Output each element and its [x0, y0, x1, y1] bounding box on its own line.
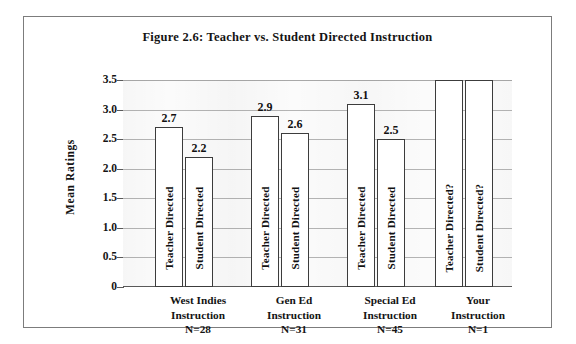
y-axis-title-text: Mean Ratings	[64, 139, 76, 215]
y-axis-tick-label: 0	[84, 281, 117, 293]
bar-inner-label: Student Directed?	[473, 184, 485, 272]
category-line: Instruction	[418, 308, 538, 323]
bar-inner-label: Student Directed	[385, 187, 397, 270]
y-axis-tick-mark	[117, 110, 123, 111]
bar-value-label: 2.7	[162, 111, 177, 126]
plot-area: Teacher Directed2.7Student Directed2.2Te…	[123, 80, 512, 287]
bar-inner-label: Student Directed	[289, 187, 301, 270]
bar-value-label: 2.9	[258, 100, 273, 115]
y-axis-tick-mark	[117, 169, 123, 170]
bar-inner-label: Teacher Directed	[355, 186, 367, 269]
x-axis-category-labels: West IndiesInstructionN=28Gen EdInstruct…	[123, 293, 512, 343]
bar-inner-label: Teacher Directed	[259, 186, 271, 269]
y-axis-tick-mark	[117, 80, 123, 81]
bar-value-label: 2.5	[384, 123, 399, 138]
x-axis-category-label: YourInstructionN=1	[418, 293, 538, 337]
y-axis-tick-mark	[117, 228, 123, 229]
bar: Teacher Directed3.1	[347, 104, 375, 287]
bar: Student Directed?	[465, 80, 493, 287]
bar-value-label: 2.6	[288, 117, 303, 132]
y-axis-tick-label: 3.5	[84, 74, 117, 86]
bar: Teacher Directed?	[435, 80, 463, 287]
y-axis-tick-label: 2.0	[84, 163, 117, 175]
y-axis-tick-labels: 00.51.01.52.02.53.03.5	[84, 64, 117, 304]
category-line: Your	[418, 293, 538, 308]
y-axis-tick-label: 1.0	[84, 222, 117, 234]
y-axis-title: Mean Ratings	[62, 117, 78, 237]
bar-inner-label: Teacher Directed?	[443, 183, 455, 272]
bar: Student Directed2.5	[377, 139, 405, 287]
y-axis-tick-mark	[117, 198, 123, 199]
bar-value-label: 2.2	[192, 141, 207, 156]
bar-inner-label: Student Directed	[193, 187, 205, 270]
bar: Teacher Directed2.7	[155, 127, 183, 287]
y-axis-tick-label: 0.5	[84, 252, 117, 264]
y-axis-tick-label: 1.5	[84, 193, 117, 205]
y-axis-tick-mark	[117, 139, 123, 140]
y-axis-tick-label: 2.5	[84, 133, 117, 145]
y-axis-tick-mark	[117, 257, 123, 258]
bar: Teacher Directed2.9	[251, 116, 279, 288]
y-axis-tick-label: 3.0	[84, 104, 117, 116]
bar: Student Directed2.6	[281, 133, 309, 287]
y-axis-tick-mark	[117, 287, 123, 288]
chart-title: Figure 2.6: Teacher vs. Student Directed…	[24, 30, 551, 45]
sample-size: N=1	[418, 322, 538, 337]
bar: Student Directed2.2	[185, 157, 213, 287]
bar-inner-label: Teacher Directed	[163, 186, 175, 269]
bar-value-label: 3.1	[354, 88, 369, 103]
figure-frame: Figure 2.6: Teacher vs. Student Directed…	[23, 16, 552, 328]
